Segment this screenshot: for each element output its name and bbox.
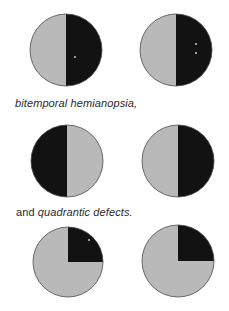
caption-bitemporal-hemianopsia: bitemporal hemianopsia, [15,97,137,109]
caption-quadrantic-defects: and quadrantic defects. [16,206,133,218]
blind-field-area [178,125,214,197]
blind-field-area [178,225,214,261]
field-row-1-left [30,14,102,86]
field-row-1-right [140,14,212,86]
fixation-spot [195,52,197,54]
visual-field-diagram [0,0,229,311]
caption-quadrantic-prefix: and [16,206,38,218]
blind-field-area [68,227,103,262]
fixation-spot [195,43,197,45]
caption-quadrantic-term: quadrantic defects. [38,206,133,218]
caption-hemianopsia-text: bitemporal hemianopsia, [15,97,137,109]
blind-field-area [66,14,102,86]
field-row-3-right [142,225,214,297]
field-row-2-right [142,125,214,197]
field-row-3-left [33,227,103,297]
blind-field-area [31,125,67,197]
fixation-spot [88,239,90,241]
blind-field-area [176,14,212,86]
fixation-spot [74,56,76,58]
field-row-2-left [31,125,103,197]
